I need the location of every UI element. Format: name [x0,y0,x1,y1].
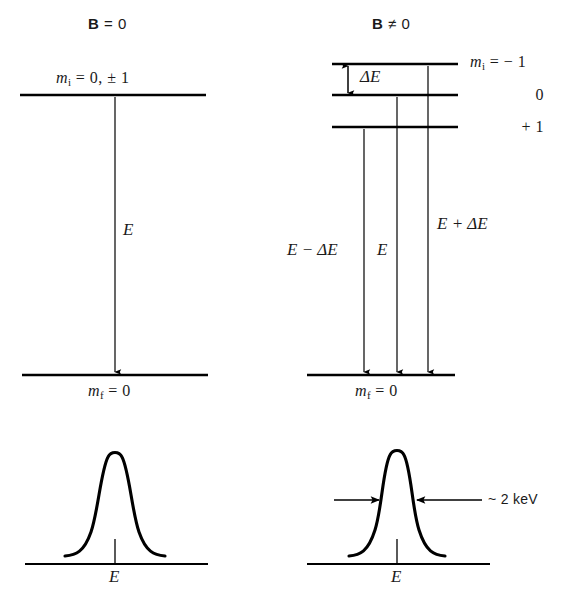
delta-e-label: ΔE [360,68,380,85]
left-panel-heading-rest: = 0 [104,15,127,32]
right-lower-level-m: m [355,382,367,399]
left-panel-heading: B = 0 [88,16,127,31]
left-panel-levels [20,95,208,375]
left-upper-level-value: = 0, ± 1 [76,69,130,86]
right-level-minus1-m: m [470,53,482,70]
right-level-minus1-value: = − 1 [490,53,527,70]
delta-e-label-text: ΔE [360,67,380,86]
left-lower-level-value: = 0 [108,382,131,399]
left-lower-level-label: mf = 0 [88,383,131,401]
left-lower-level-m: m [88,382,100,399]
left-upper-level-subscript: i [68,76,71,88]
right-lower-level-label: mf = 0 [355,383,398,401]
transition-label-e-text: E [377,240,387,259]
left-spectrum [25,453,208,565]
right-spectrum [307,451,490,565]
transition-label-e-plus-de-text: E + ΔE [437,214,488,233]
right-lower-level-subscript: f [367,389,371,401]
left-lower-level-subscript: f [100,389,104,401]
right-spectrum-tick-label: E [391,568,401,585]
left-spectrum-tick-text: E [109,567,119,586]
right-panel-heading-rest: ≠ 0 [388,15,410,32]
right-level-label-minus1: mi = − 1 [470,54,526,72]
right-panel-heading-symbol: B [372,15,383,32]
left-upper-level-label: mi = 0, ± 1 [56,70,129,88]
transition-label-e-plus-de: E + ΔE [437,215,488,232]
right-level-plus1-value: + 1 [521,118,544,135]
transition-label-e-minus-de-text: E − ΔE [287,240,338,259]
right-panel-levels [307,64,458,375]
right-lower-level-value: = 0 [375,382,398,399]
right-spectrum-tick-text: E [391,567,401,586]
right-level-zero-value: 0 [536,86,545,103]
right-level-label-plus1: + 1 [470,119,544,135]
right-level-minus1-subscript: i [482,60,485,72]
linewidth-annotation: ~ 2 keV [488,492,538,506]
left-upper-level-m: m [56,69,68,86]
left-panel-heading-symbol: B [88,15,99,32]
transition-label-e: E [377,241,387,258]
left-transition-label: E [123,221,133,238]
right-level-label-zero: 0 [470,87,544,103]
linewidth-annotation-text: ~ 2 keV [488,491,538,507]
figure-canvas: B = 0 mi = 0, ± 1 E mf = 0 E B ≠ 0 ΔE mi… [0,0,562,593]
transition-label-e-minus-de: E − ΔE [287,241,338,258]
left-spectrum-tick-label: E [109,568,119,585]
right-panel-heading: B ≠ 0 [372,16,410,31]
left-transition-label-text: E [123,220,133,239]
